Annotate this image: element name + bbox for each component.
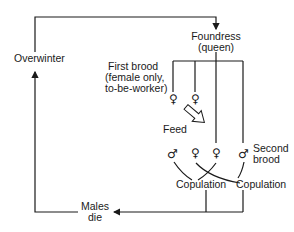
female-icon: ♀ <box>191 93 200 105</box>
copulation-label-2: Copulation <box>236 179 286 190</box>
feed-label: Feed <box>163 124 187 135</box>
male-icon: ♂ <box>238 148 249 160</box>
arrow-to-overwinter <box>35 72 78 212</box>
female-icon: ♀ <box>191 147 200 159</box>
males-die-label-2: die <box>78 212 112 223</box>
female-icon: ♀ <box>212 147 221 159</box>
second-brood-label-2: brood <box>253 154 280 165</box>
overwinter-label: Overwinter <box>14 53 65 64</box>
diagram-connectors <box>0 0 294 232</box>
female-icon: ♀ <box>169 93 178 105</box>
life-cycle-diagram: Overwinter Foundress (queen) First brood… <box>0 0 294 232</box>
copulation-label-1: Copulation <box>176 179 226 190</box>
queen-label: (queen) <box>186 42 246 53</box>
first-brood-note-2: to-be-worker) <box>105 83 167 94</box>
male-icon: ♂ <box>167 148 178 160</box>
